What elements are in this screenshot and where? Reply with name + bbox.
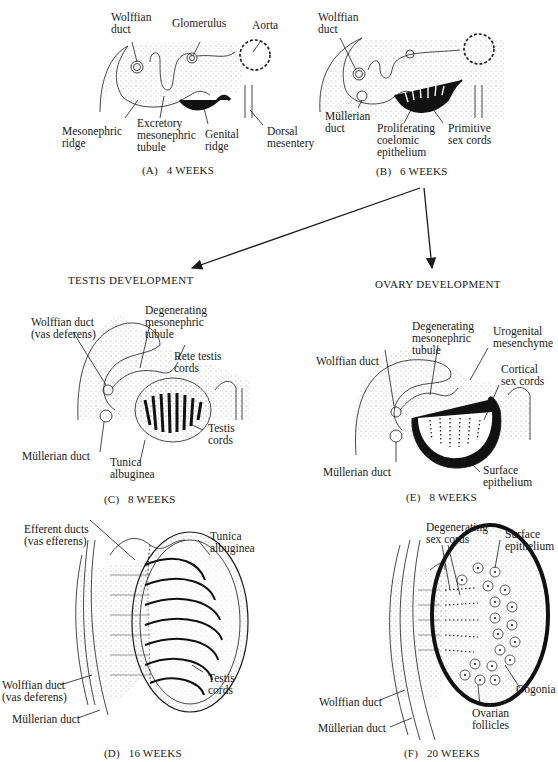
label-glomerulus: Glomerulus: [172, 17, 226, 29]
label-efferent-ducts: Efferent ducts (vas efferens): [24, 523, 89, 547]
label-mesonephric-ridge: Mesonephric ridge: [62, 125, 122, 149]
panel-f-drawing: [380, 525, 548, 740]
label-wolffian-duct-d: Wolffian duct (vas deferens): [2, 679, 67, 703]
label-mullerian-duct-f: Müllerian duct: [318, 722, 386, 734]
caption-f: (F) 20 WEEKS: [404, 747, 480, 759]
label-surface-epithelium-e: Surface epithelium: [483, 464, 532, 488]
label-mullerian-duct-b: Müllerian duct: [325, 110, 370, 134]
caption-b: (B) 6 WEEKS: [376, 165, 447, 177]
caption-d: (D) 16 WEEKS: [104, 747, 182, 759]
label-excretory-mesonephric-tubule: Excretory mesonephric tubule: [137, 117, 196, 153]
embryology-diagram-artwork: [0, 0, 558, 762]
label-surface-epithelium-f: Surface epithelium: [505, 528, 554, 552]
label-testis-cords-d: Testis cords: [208, 672, 235, 696]
label-urogenital-mesenchyme: Urogenital mesenchyme: [493, 325, 553, 349]
label-testis-cords-c: Testis cords: [208, 422, 235, 446]
label-aorta: Aorta: [252, 19, 278, 31]
label-wolffian-duct-e: Wolffian duct: [316, 355, 379, 367]
label-wolffian-duct-a: Wolffian duct: [111, 11, 151, 35]
label-oogonia: Oogonia: [516, 683, 556, 695]
label-mullerian-duct-e: Müllerian duct: [323, 466, 391, 478]
label-tunica-albuginea-c: Tunica albuginea: [110, 456, 155, 480]
label-wolffian-duct-f: Wolffian duct: [319, 696, 382, 708]
label-dorsal-mesentery: Dorsal mesentery: [267, 125, 314, 149]
label-wolffian-duct-b: Wolffian duct: [318, 11, 358, 35]
panel-a-drawing: [100, 40, 270, 125]
label-degenerating-tubule-e: Degenerating mesonephric tubule: [412, 320, 474, 356]
label-mullerian-duct-c: Müllerian duct: [22, 450, 90, 462]
label-cortical-sex-cords: Cortical sex cords: [501, 363, 544, 387]
label-wolffian-duct-c: Wolffian duct (vas deferens): [31, 316, 96, 340]
label-degenerating-sex-cords: Degenerating sex cords: [426, 521, 488, 545]
label-mullerian-duct-d: Müllerian duct: [12, 713, 80, 725]
header-testis-development: TESTIS DEVELOPMENT: [68, 274, 193, 286]
label-primitive-sex-cords: Primitive sex cords: [448, 122, 491, 146]
header-ovary-development: OVARY DEVELOPMENT: [375, 278, 501, 290]
label-genital-ridge: Genital ridge: [205, 128, 239, 152]
label-proliferating-coelomic-epithelium: Proliferating coelomic epithelium: [377, 122, 435, 158]
caption-c: (C) 8 WEEKS: [104, 493, 175, 505]
label-tunica-albuginea-d: Tunica albuginea: [210, 530, 255, 554]
label-rete-testis-cords: Rete testis cords: [174, 350, 222, 374]
label-degenerating-tubule-c: Degenerating mesonephric tubule: [145, 304, 207, 340]
label-ovarian-follicles: Ovarian follicles: [472, 707, 509, 731]
caption-a: (A) 4 WEEKS: [142, 164, 214, 176]
caption-e: (E) 8 WEEKS: [406, 491, 477, 503]
